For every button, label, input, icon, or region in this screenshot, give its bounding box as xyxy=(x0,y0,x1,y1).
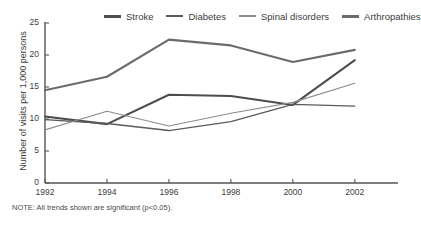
y-tick-label: 20 xyxy=(17,49,39,59)
y-tick-label: 5 xyxy=(17,145,39,155)
series-line-stroke[interactable] xyxy=(45,60,355,124)
y-tick-label: 10 xyxy=(17,113,39,123)
chart-note: NOTE: All trends shown are significant (… xyxy=(12,203,172,212)
y-tick-label: 0 xyxy=(17,177,39,187)
x-tick-label: 1998 xyxy=(215,187,247,197)
x-tick-label: 2000 xyxy=(277,187,309,197)
x-tick-label: 1992 xyxy=(29,187,61,197)
y-tick-label: 15 xyxy=(17,81,39,91)
series-line-arthropathies[interactable] xyxy=(45,40,355,91)
x-tick-label: 1996 xyxy=(153,187,185,197)
y-tick-label: 25 xyxy=(17,17,39,27)
x-tick-label: 1994 xyxy=(91,187,123,197)
series-line-diabetes[interactable] xyxy=(45,104,355,130)
x-tick-label: 2002 xyxy=(339,187,371,197)
